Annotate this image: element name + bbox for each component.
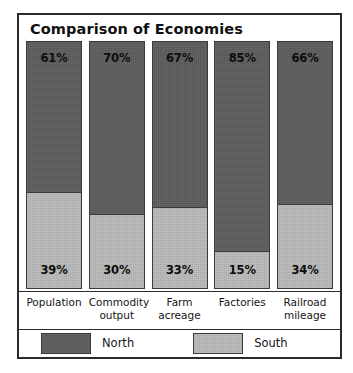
legend-item-north[interactable]: North [41,333,134,354]
chart-title: Comparison of Economies [30,21,243,37]
chart-container: Comparison of Economies 61% 39% 70% [17,13,342,359]
stacked-bar: 61% 39% [26,41,82,289]
bar-value-north: 66% [278,51,332,65]
legend-label-north: North [102,336,134,350]
bar-value-south: 15% [215,263,269,277]
bar-segment-south: 30% [90,214,144,288]
bar-value-north: 67% [153,51,207,65]
stacked-bar: 66% 34% [277,41,333,289]
category-label-population: Population [26,294,82,330]
bar-column-farm-acreage[interactable]: 67% 33% [152,41,208,289]
bar-column-population[interactable]: 61% 39% [26,41,82,289]
bar-column-commodity-output[interactable]: 70% 30% [89,41,145,289]
category-label-commodity-output: Commodity output [89,294,145,330]
bar-segment-south: 15% [215,251,269,288]
stacked-bar: 67% 33% [152,41,208,289]
bar-column-railroad-mileage[interactable]: 66% 34% [277,41,333,289]
legend-swatch-south-icon [193,333,243,354]
legend-swatch-north-icon [41,333,91,354]
category-label-railroad-mileage: Railroad mileage [277,294,333,330]
bar-segment-north: 85% [215,42,269,251]
bar-segment-north: 61% [27,42,81,192]
bar-segment-north: 67% [153,42,207,207]
bars-row: 61% 39% 70% 30% [26,41,333,289]
bar-value-north: 70% [90,51,144,65]
bar-segment-north: 66% [278,42,332,204]
bar-value-south: 30% [90,263,144,277]
bar-segment-south: 33% [153,207,207,288]
stacked-bar: 70% 30% [89,41,145,289]
bar-segment-south: 34% [278,204,332,288]
bar-segment-north: 70% [90,42,144,214]
stacked-bar: 85% 15% [214,41,270,289]
bar-segment-south: 39% [27,192,81,288]
bar-value-south: 39% [27,263,81,277]
bar-column-factories[interactable]: 85% 15% [214,41,270,289]
plot-area: 61% 39% 70% 30% [19,41,340,291]
bar-value-south: 33% [153,263,207,277]
axis-divider [19,291,340,292]
category-labels: Population Commodity output Farm acreage… [26,294,333,330]
bar-value-north: 85% [215,51,269,65]
bar-value-north: 61% [27,51,81,65]
bar-value-south: 34% [278,263,332,277]
category-label-factories: Factories [214,294,270,330]
category-label-farm-acreage: Farm acreage [152,294,208,330]
chart-legend: North South [19,329,340,357]
legend-label-south: South [254,336,287,350]
legend-item-south[interactable]: South [193,333,287,354]
